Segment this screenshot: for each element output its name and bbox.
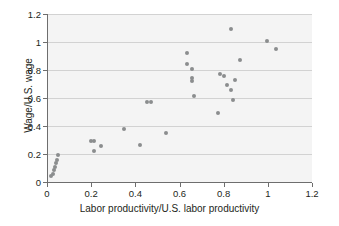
x-tick-label: 0.6 (173, 188, 186, 199)
gridline (47, 98, 312, 99)
x-axis-label: Labor productivity/U.S. labor productivi… (0, 203, 339, 214)
y-tick-label: 0 (36, 177, 41, 188)
data-point (190, 67, 194, 71)
data-point (164, 131, 168, 135)
x-tick-mark (224, 183, 225, 187)
gridline (47, 154, 312, 155)
data-point (233, 78, 237, 82)
data-point (216, 111, 220, 115)
x-tick-mark (180, 183, 181, 187)
scatter-chart-figure: 00.20.40.60.811.2 00.20.40.60.811.2 Labo… (0, 0, 339, 226)
y-tick-mark (43, 182, 47, 183)
y-tick-mark (43, 42, 47, 43)
data-point (52, 168, 56, 172)
x-tick-label: 0 (44, 188, 49, 199)
gridline (47, 70, 312, 71)
data-point (138, 143, 142, 147)
gridline (47, 42, 312, 43)
y-tick-mark (43, 14, 47, 15)
data-point (190, 79, 194, 83)
x-tick-mark (47, 183, 48, 187)
data-point (274, 47, 278, 51)
gridline (47, 14, 312, 15)
x-tick-mark (91, 183, 92, 187)
data-point (265, 39, 269, 43)
x-tick-mark (268, 183, 269, 187)
data-point (222, 74, 226, 78)
x-tick-label: 0.4 (129, 188, 142, 199)
data-point (185, 62, 189, 66)
x-tick-mark (135, 183, 136, 187)
plot-area (47, 14, 312, 182)
y-tick-label: 1 (36, 37, 41, 48)
data-point (231, 98, 235, 102)
x-tick-label: 1 (265, 188, 270, 199)
x-tick-label: 0.8 (217, 188, 230, 199)
y-tick-mark (43, 98, 47, 99)
data-point (55, 158, 59, 162)
data-point (185, 51, 189, 55)
y-tick-mark (43, 154, 47, 155)
data-point (192, 94, 196, 98)
data-point (229, 27, 233, 31)
gridline (47, 126, 312, 127)
data-point (56, 153, 60, 157)
y-tick-mark (43, 126, 47, 127)
data-point (92, 149, 96, 153)
x-tick-label: 0.2 (85, 188, 98, 199)
data-point (122, 127, 126, 131)
data-point (149, 100, 153, 104)
data-point (229, 88, 233, 92)
data-point (238, 58, 242, 62)
y-axis-line (47, 14, 48, 183)
y-axis-label: Wage/U.S. wage (23, 16, 34, 176)
data-point (99, 144, 103, 148)
data-point (51, 172, 55, 176)
y-tick-mark (43, 70, 47, 71)
data-point (225, 83, 229, 87)
x-tick-mark (312, 183, 313, 187)
data-point (53, 165, 57, 169)
data-point (92, 139, 96, 143)
x-tick-label: 1.2 (305, 188, 318, 199)
